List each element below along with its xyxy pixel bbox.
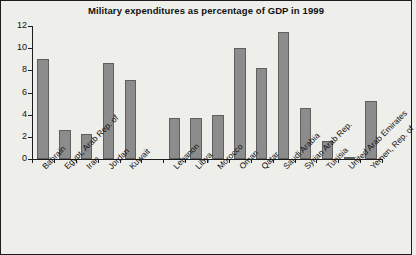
bar xyxy=(256,68,267,159)
y-axis-tick-label: 10 xyxy=(17,42,27,52)
bar xyxy=(212,115,223,159)
y-axis-tick-label: 2 xyxy=(22,131,27,141)
chart-title: Military expenditures as percentage of G… xyxy=(1,5,411,16)
x-axis-tick-mark xyxy=(32,159,33,163)
y-axis-tick-label: 0 xyxy=(22,153,27,163)
y-axis-tick-mark xyxy=(28,115,32,116)
y-axis-tick-mark xyxy=(28,48,32,49)
y-axis-tick-label: 8 xyxy=(22,64,27,74)
y-axis-tick-label: 6 xyxy=(22,87,27,97)
y-axis-tick-mark xyxy=(28,137,32,138)
y-axis-tick-label: 4 xyxy=(22,109,27,119)
bar xyxy=(103,63,114,159)
y-axis-tick-mark xyxy=(28,93,32,94)
bar xyxy=(278,32,289,159)
bar xyxy=(169,118,180,159)
x-axis-tick-mark xyxy=(163,159,164,163)
y-axis-tick-mark xyxy=(28,70,32,71)
y-axis-tick-mark xyxy=(28,26,32,27)
y-axis-tick-label: 12 xyxy=(17,20,27,30)
bar xyxy=(37,59,48,159)
